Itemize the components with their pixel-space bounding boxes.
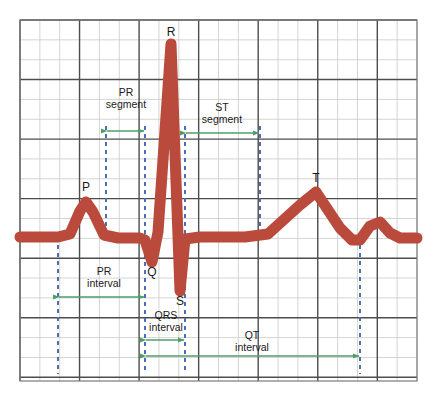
wave-label-s: S <box>176 295 184 307</box>
label-st-segment: STsegment <box>202 101 242 125</box>
wave-label-q: Q <box>147 266 156 278</box>
label-qt-interval: QTinterval <box>235 329 269 353</box>
wave-label-t: T <box>312 172 319 184</box>
ecg-diagram: PQRST PRsegmentSTsegmentPRintervalQRSint… <box>0 0 438 399</box>
label-st-segment-line2: segment <box>202 113 242 125</box>
label-qt-interval-line2: interval <box>235 341 269 353</box>
label-pr-segment-line2: segment <box>106 98 146 110</box>
label-qrs-interval-line2: interval <box>149 321 183 333</box>
wave-label-r: R <box>167 26 176 38</box>
label-pr-interval-line1: PR <box>87 265 121 277</box>
wave-label-p: P <box>82 181 90 193</box>
label-pr-interval: PRinterval <box>87 265 121 289</box>
label-qrs-interval-line1: QRS <box>149 309 183 321</box>
label-pr-interval-line2: interval <box>87 277 121 289</box>
label-pr-segment: PRsegment <box>106 86 146 110</box>
label-qt-interval-line1: QT <box>235 329 269 341</box>
label-pr-segment-line1: PR <box>106 86 146 98</box>
ecg-canvas <box>0 0 438 399</box>
label-qrs-interval: QRSinterval <box>149 309 183 333</box>
label-st-segment-line1: ST <box>202 101 242 113</box>
